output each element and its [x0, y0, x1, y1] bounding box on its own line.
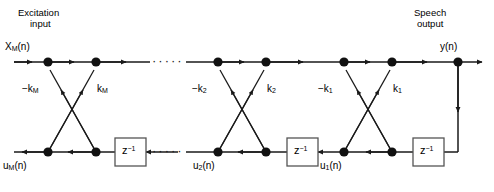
speech-output-label: Speech output — [414, 8, 446, 30]
coefficient-label-neg-1: −k1 — [318, 83, 333, 95]
bottom-signal-label-1: u1(n) — [320, 160, 342, 172]
cross-M-arrow-right — [48, 90, 83, 152]
bottom-signal-label-M: uM(n) — [3, 160, 27, 172]
output-feedback-path — [443, 62, 458, 152]
node-output — [453, 57, 462, 66]
delay-label-2: z−1 — [294, 144, 307, 157]
ellipsis-top: ····· — [152, 54, 184, 69]
delay-label-1: z−1 — [420, 144, 433, 157]
ellipsis-bottom: ····· — [152, 144, 184, 159]
cross-1-arrow-right — [344, 90, 379, 152]
delay-label-3: z−1 — [122, 144, 135, 157]
coefficient-label-pos-1: k1 — [393, 83, 402, 95]
coefficient-label-pos-2: k2 — [267, 83, 276, 95]
summing-nodes — [43, 57, 462, 156]
node-bottom-M-a — [43, 147, 52, 156]
node-bottom-1-b — [387, 147, 396, 156]
coefficient-label-neg-M: −kM — [22, 83, 39, 95]
node-top-1-b — [387, 57, 396, 66]
lattice-crossing-1 — [344, 70, 392, 152]
coefficient-label-neg-2: −k2 — [192, 83, 207, 95]
cross-M-arrow-left — [61, 90, 96, 152]
lattice-crossing-M — [48, 70, 96, 152]
bottom-signal-label-2: u2(n) — [193, 160, 215, 172]
cross-2-arrow-left — [231, 90, 266, 152]
node-top-M-a — [43, 57, 52, 66]
node-bottom-M-b — [91, 147, 100, 156]
coefficient-label-pos-M: kM — [97, 83, 108, 95]
input-signal-label: XM(n) — [5, 41, 30, 53]
node-top-1-a — [339, 57, 348, 66]
node-top-2-b — [261, 57, 270, 66]
node-bottom-2-b — [261, 147, 270, 156]
node-top-M-b — [91, 57, 100, 66]
excitation-input-label: Excitation input — [18, 8, 59, 30]
node-bottom-2-a — [213, 147, 222, 156]
node-top-2-a — [213, 57, 222, 66]
node-bottom-1-a — [339, 147, 348, 156]
lattice-crossing-2 — [218, 70, 266, 152]
cross-2-arrow-right — [218, 90, 253, 152]
output-signal-label: y(n) — [440, 41, 457, 53]
cross-1-arrow-left — [357, 90, 392, 152]
